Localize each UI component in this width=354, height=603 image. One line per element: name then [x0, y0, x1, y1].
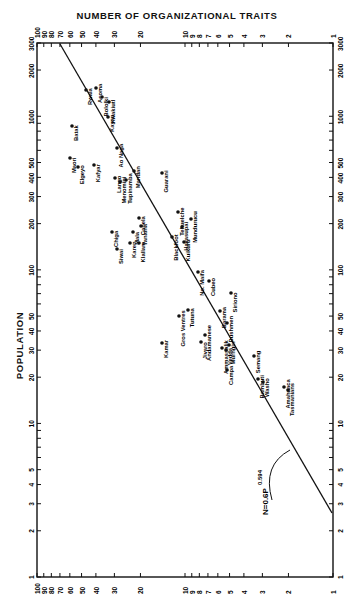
- scatter-plot: 100908070605040302010987654321 100908070…: [0, 0, 354, 603]
- svg-text:20: 20: [137, 30, 144, 38]
- svg-text:Tutuna: Tutuna: [189, 308, 195, 328]
- svg-text:2000: 2000: [28, 63, 35, 78]
- svg-text:3: 3: [337, 502, 344, 506]
- y-axis-right-ticks: 3000200010005004003002001005040302010543…: [329, 36, 344, 579]
- svg-text:6: 6: [215, 590, 222, 594]
- svg-text:Jivaro: Jivaro: [202, 342, 208, 360]
- svg-text:1: 1: [330, 590, 337, 594]
- svg-text:20: 20: [337, 374, 344, 382]
- svg-text:7: 7: [205, 34, 212, 38]
- svg-text:Batak: Batak: [73, 124, 79, 141]
- svg-text:50: 50: [79, 30, 86, 38]
- svg-text:9: 9: [189, 590, 196, 594]
- svg-text:8: 8: [196, 34, 203, 38]
- svg-text:Mandan: Mandan: [135, 166, 141, 188]
- regression-line: [60, 44, 332, 513]
- svg-text:50: 50: [337, 312, 344, 320]
- svg-text:4: 4: [241, 590, 248, 594]
- svg-text:Campa: Campa: [228, 365, 234, 385]
- svg-text:1: 1: [337, 575, 344, 579]
- svg-text:80: 80: [48, 586, 55, 594]
- svg-text:Kayan: Kayan: [109, 114, 115, 132]
- svg-text:Bushmen: Bushmen: [228, 316, 234, 343]
- svg-text:500: 500: [28, 157, 35, 168]
- svg-text:2: 2: [285, 34, 292, 38]
- svg-text:1000: 1000: [28, 109, 35, 124]
- svg-text:5: 5: [227, 590, 234, 594]
- svg-text:Gros Ventres: Gros Ventres: [180, 310, 186, 346]
- svg-text:6: 6: [215, 34, 222, 38]
- svg-text:300: 300: [337, 191, 344, 202]
- svg-text:Ao Naga: Ao Naga: [118, 143, 124, 167]
- svg-text:1000: 1000: [337, 109, 344, 124]
- svg-text:200: 200: [28, 218, 35, 229]
- svg-text:Semang: Semang: [255, 350, 261, 373]
- x-axis-top-ticks: 100908070605040302010987654321: [34, 27, 337, 47]
- svg-text:3000: 3000: [28, 36, 35, 51]
- data-points: BatakRwalaAcomaBololkiKwakiutlKayanMaori…: [68, 83, 295, 416]
- svg-text:50: 50: [79, 586, 86, 594]
- svg-text:40: 40: [337, 327, 344, 335]
- svg-text:40: 40: [28, 327, 35, 335]
- y-axis-left-ticks: 3000200010005004003002001005040302010543…: [28, 36, 41, 579]
- svg-text:60: 60: [67, 30, 74, 38]
- svg-text:Tupinamba: Tupinamba: [127, 173, 133, 204]
- svg-text:100: 100: [28, 265, 35, 276]
- svg-text:40: 40: [93, 30, 100, 38]
- svg-text:50: 50: [28, 312, 35, 320]
- svg-text:Chiga: Chiga: [113, 230, 119, 247]
- svg-text:Karen: Karen: [131, 241, 137, 258]
- svg-text:80: 80: [48, 30, 55, 38]
- svg-text:70: 70: [57, 586, 64, 594]
- svg-text:3: 3: [259, 590, 266, 594]
- svg-text:9: 9: [189, 34, 196, 38]
- svg-text:Maori: Maori: [71, 157, 77, 173]
- svg-text:4: 4: [241, 34, 248, 38]
- svg-text:Washo: Washo: [264, 378, 270, 397]
- svg-text:2: 2: [337, 529, 344, 533]
- svg-text:5: 5: [337, 468, 344, 472]
- svg-text:Murngin: Murngin: [230, 341, 236, 364]
- svg-text:Kafyar: Kafyar: [95, 163, 101, 182]
- svg-text:4: 4: [337, 483, 344, 487]
- svg-text:400: 400: [337, 172, 344, 183]
- svg-text:Guarani: Guarani: [163, 170, 169, 192]
- svg-text:70: 70: [57, 30, 64, 38]
- svg-text:200: 200: [337, 218, 344, 229]
- svg-text:3: 3: [28, 502, 35, 506]
- svg-text:N=0.6P: N=0.6P: [261, 487, 270, 515]
- svg-text:90: 90: [41, 30, 48, 38]
- svg-text:Elgeyo: Elgeyo: [79, 165, 85, 184]
- svg-text:Barama: Barama: [221, 306, 227, 328]
- svg-text:Kuikuru: Kuikuru: [185, 239, 191, 261]
- regression-label: N=0.6P 0.594: [257, 450, 290, 515]
- svg-text:60: 60: [67, 586, 74, 594]
- svg-text:10: 10: [337, 420, 344, 428]
- svg-text:Mundurucu: Mundurucu: [192, 211, 198, 243]
- plot-frame: [37, 43, 333, 577]
- svg-text:2: 2: [28, 529, 35, 533]
- svg-text:30: 30: [337, 347, 344, 355]
- svg-text:30: 30: [28, 347, 35, 355]
- svg-text:100: 100: [337, 265, 344, 276]
- svg-text:4: 4: [28, 483, 35, 487]
- svg-text:Cubeo: Cubeo: [210, 278, 216, 296]
- svg-text:Bololki: Bololki: [103, 97, 109, 117]
- svg-text:90: 90: [41, 586, 48, 594]
- svg-text:3: 3: [259, 34, 266, 38]
- x-axis-bottom-ticks: 100908070605040302010987654321: [34, 573, 337, 594]
- svg-text:30: 30: [111, 30, 118, 38]
- svg-text:2000: 2000: [337, 63, 344, 78]
- svg-text:30: 30: [111, 586, 118, 594]
- svg-text:8: 8: [196, 590, 203, 594]
- svg-text:20: 20: [28, 374, 35, 382]
- svg-text:40: 40: [93, 586, 100, 594]
- svg-text:10: 10: [28, 420, 35, 428]
- svg-text:1: 1: [330, 34, 337, 38]
- svg-text:Tanaina: Tanaina: [142, 223, 148, 245]
- svg-text:2: 2: [285, 590, 292, 594]
- svg-text:5: 5: [28, 468, 35, 472]
- svg-text:7: 7: [205, 590, 212, 594]
- svg-text:20: 20: [137, 586, 144, 594]
- svg-text:Rwala: Rwala: [87, 87, 93, 105]
